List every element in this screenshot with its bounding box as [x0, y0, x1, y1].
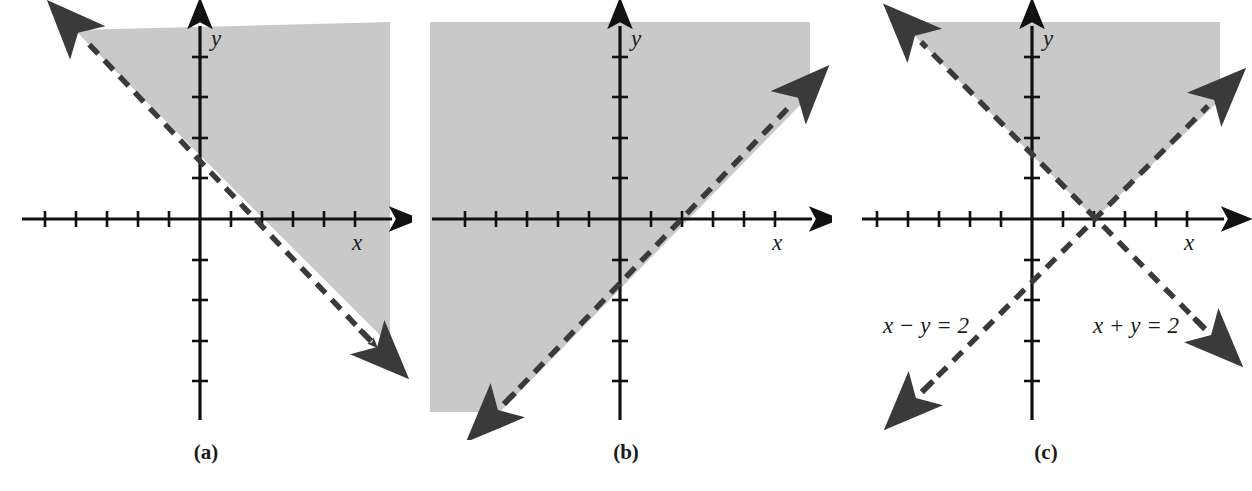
- panel-b: x y (b): [420, 0, 832, 491]
- caption-b: (b): [420, 440, 832, 465]
- y-axis-label-a: y: [209, 26, 222, 51]
- equation-label-x-minus-y: x − y = 2: [882, 313, 969, 338]
- y-axis-label-b: y: [629, 26, 642, 51]
- x-axis-label-c: x: [1183, 230, 1195, 255]
- figure-container: x y (a): [0, 0, 1252, 491]
- x-axis-label-b: x: [771, 230, 783, 255]
- shaded-region-c: [912, 22, 1220, 219]
- equation-label-x-plus-y: x + y = 2: [1092, 313, 1179, 338]
- caption-c: (c): [840, 440, 1252, 465]
- panel-b-plot: x y: [420, 0, 832, 440]
- x-axis-label-a: x: [351, 230, 363, 255]
- panel-a-plot: x y: [0, 0, 412, 440]
- caption-a: (a): [0, 440, 412, 465]
- panel-a: x y (a): [0, 0, 412, 491]
- panel-c-plot: x y x − y = 2 x + y = 2: [840, 0, 1252, 440]
- panel-c: x y x − y = 2 x + y = 2 (c): [840, 0, 1252, 491]
- y-axis-label-c: y: [1041, 26, 1054, 51]
- shaded-region-a: [75, 22, 390, 345]
